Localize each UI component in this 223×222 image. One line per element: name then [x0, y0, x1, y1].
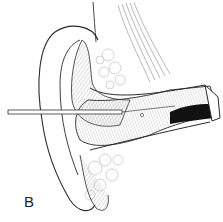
temporal-lines: [93, 2, 170, 82]
panel-label: B: [24, 193, 34, 210]
ear-illustration: [0, 0, 223, 222]
earlobe: [80, 155, 108, 210]
